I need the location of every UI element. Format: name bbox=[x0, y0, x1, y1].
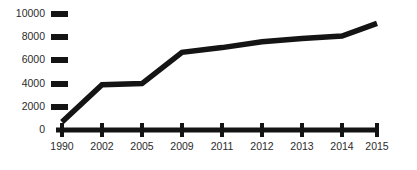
y-tick-label-0: 0 bbox=[39, 123, 45, 135]
x-tick-label-1990: 1990 bbox=[50, 140, 74, 152]
line-chart: 10000 8000 6000 4000 2000 0 1990 2002 bbox=[0, 0, 417, 170]
x-tick-label-2014: 2014 bbox=[330, 140, 354, 152]
y-tick-label-2000: 2000 bbox=[22, 100, 46, 112]
y-tick-label-8000: 8000 bbox=[22, 30, 46, 42]
x-tick-label-2011: 2011 bbox=[211, 140, 234, 152]
x-axis-labels: 1990 2002 2005 2009 2011 2012 2013 2014 … bbox=[50, 140, 389, 152]
y-axis-ticks bbox=[51, 14, 68, 107]
data-series-line bbox=[62, 23, 377, 122]
x-tick-label-2005: 2005 bbox=[130, 140, 154, 152]
y-tick-label-6000: 6000 bbox=[22, 53, 46, 65]
y-tick-label-10000: 10000 bbox=[16, 7, 45, 19]
y-axis-labels: 10000 8000 6000 4000 2000 0 bbox=[16, 7, 45, 135]
x-tick-label-2013: 2013 bbox=[290, 140, 314, 152]
chart-container: 10000 8000 6000 4000 2000 0 1990 2002 bbox=[0, 0, 417, 170]
x-tick-label-2012: 2012 bbox=[250, 140, 274, 152]
y-tick-label-4000: 4000 bbox=[22, 77, 46, 89]
x-tick-label-2009: 2009 bbox=[170, 140, 194, 152]
x-tick-label-2002: 2002 bbox=[90, 140, 114, 152]
x-tick-label-2015: 2015 bbox=[365, 140, 389, 152]
